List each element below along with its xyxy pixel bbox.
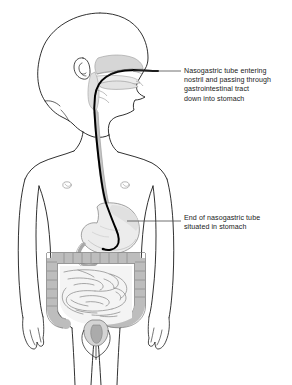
shoulder-right <box>118 152 167 179</box>
rectum-inner-detail <box>91 325 103 343</box>
neck-left <box>74 132 83 151</box>
nipple-right <box>121 182 129 188</box>
annotation-nasogastric-entry: Nasogastric tube entering nostril and pa… <box>184 67 290 104</box>
neck-right <box>109 135 118 152</box>
nasogastric-tube-diagram <box>0 0 292 385</box>
leg-left-outer <box>72 328 75 385</box>
nasogastric-tube-tip <box>102 248 105 251</box>
leg-right-inner <box>98 340 101 385</box>
right-arm-outer <box>167 179 174 318</box>
nipple-left <box>63 182 71 188</box>
annotation-tube-end: End of nasogastric tube situated in stom… <box>184 214 290 232</box>
gi-tract-group <box>47 112 146 360</box>
right-hand <box>148 317 169 349</box>
head-face-profile <box>100 13 148 135</box>
head-cranium <box>38 13 100 132</box>
left-arm-outer <box>18 179 25 318</box>
right-arm-inner <box>149 186 156 317</box>
left-hand <box>23 317 44 349</box>
shoulder-left <box>25 151 74 179</box>
leg-left-inner <box>91 340 94 385</box>
small-intestine-group <box>60 266 132 325</box>
leg-right-outer <box>117 328 120 385</box>
left-arm-inner <box>36 186 43 317</box>
